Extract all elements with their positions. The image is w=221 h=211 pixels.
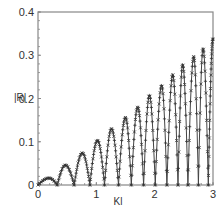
data-curve (38, 39, 213, 185)
x-tick-label: 0 (35, 188, 41, 200)
y-tick-label: 0 (28, 179, 34, 191)
y-axis-label: |R| (14, 92, 26, 103)
x-tick-label: 3 (210, 188, 216, 200)
x-tick-label: 2 (152, 188, 158, 200)
reflection-chart: 00.10.20.30.4 0123 |R| Kl (0, 0, 221, 211)
y-tick-label: 0.4 (19, 6, 34, 18)
x-axis-label: Kl (114, 196, 123, 207)
x-tick-label: 1 (93, 188, 99, 200)
y-tick-label: 0.3 (19, 49, 34, 61)
y-tick-label: 0.1 (19, 136, 34, 148)
data-markers (37, 37, 215, 186)
